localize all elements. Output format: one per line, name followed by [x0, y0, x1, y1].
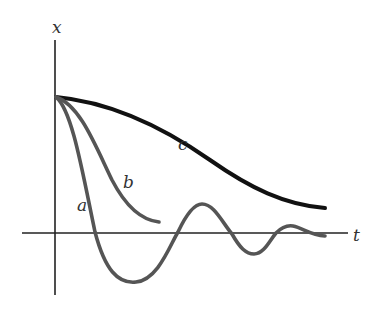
curve-b-label: b	[123, 172, 134, 192]
curve-b	[56, 97, 159, 222]
y-axis-label: x	[52, 17, 62, 37]
curve-c-label: c	[178, 134, 188, 154]
x-axis-label: t	[353, 225, 360, 245]
curve-a-label: a	[77, 195, 87, 215]
curve-c	[56, 97, 325, 208]
damping-chart: x t a b c	[0, 0, 384, 313]
curve-a	[56, 97, 325, 282]
